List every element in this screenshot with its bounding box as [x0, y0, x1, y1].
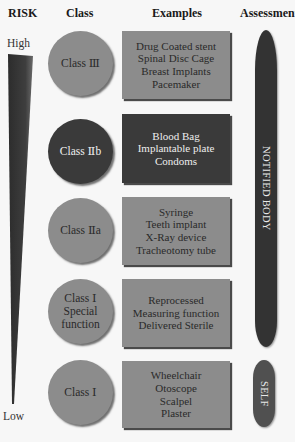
class-circle-iia: Class Ⅱa: [48, 198, 113, 263]
header-class: Class: [66, 6, 93, 21]
assessment-notified-body: NOTIFIED BODY: [255, 30, 277, 347]
example-item: Condoms: [155, 155, 197, 168]
examples-box-class-iib: Blood Bag Implantable plate Condoms: [122, 114, 230, 183]
assessment-label: SELF: [259, 381, 270, 407]
assessment-label: NOTIFIED BODY: [261, 146, 272, 231]
risk-low-label: Low: [3, 410, 24, 422]
class-label: Class Ⅱa: [60, 224, 101, 237]
example-item: Otoscope: [155, 382, 197, 395]
examples-box-class-iia: Syringe Teeth implant X-Ray device Trach…: [122, 197, 230, 265]
header-examples: Examples: [152, 6, 202, 21]
example-item: Drug Coated stent: [136, 40, 216, 53]
examples-box-class-i: Wheelchair Otoscope Scalpel Plaster: [122, 361, 230, 428]
class-circle-iii: Class Ⅲ: [48, 31, 113, 96]
class-circle-i: Class Ⅰ: [48, 360, 113, 425]
class-label-line: Special: [64, 305, 98, 318]
assessment-self: SELF: [253, 360, 275, 427]
example-item: X-Ray device: [146, 231, 207, 244]
example-item: Measuring function: [133, 307, 219, 320]
class-circle-i-special: Class Ⅰ Special function: [48, 279, 113, 344]
header-risk: RISK: [8, 6, 37, 21]
example-item: Scalpel: [160, 395, 192, 408]
example-item: Pacemaker: [152, 78, 200, 91]
class-label: Class Ⅰ: [64, 386, 96, 399]
header-assessment: Assessment: [240, 6, 295, 21]
examples-box-class-iii: Drug Coated stent Spinal Disc Cage Breas…: [122, 31, 230, 99]
example-item: Plaster: [161, 407, 191, 420]
class-label: Class Ⅱb: [60, 145, 101, 158]
risk-high-label: High: [7, 37, 30, 49]
examples-box-class-i-special: Reprocessed Measuring function Delivered…: [122, 279, 230, 347]
class-label-line: Class Ⅰ: [64, 292, 96, 305]
example-item: Wheelchair: [151, 369, 202, 382]
example-item: Reprocessed: [148, 294, 204, 307]
class-label-line: function: [61, 318, 99, 331]
example-item: Implantable plate: [138, 142, 215, 155]
example-item: Blood Bag: [152, 130, 199, 143]
example-item: Teeth implant: [146, 218, 207, 231]
example-item: Tracheotomy tube: [136, 244, 216, 257]
class-circle-iib: Class Ⅱb: [48, 119, 113, 184]
example-item: Spinal Disc Cage: [138, 52, 214, 65]
example-item: Syringe: [159, 206, 193, 219]
risk-wedge-icon: [7, 54, 35, 404]
example-item: Breast Implants: [141, 65, 210, 78]
class-label: Class Ⅲ: [61, 57, 100, 70]
example-item: Delivered Sterile: [139, 319, 214, 332]
